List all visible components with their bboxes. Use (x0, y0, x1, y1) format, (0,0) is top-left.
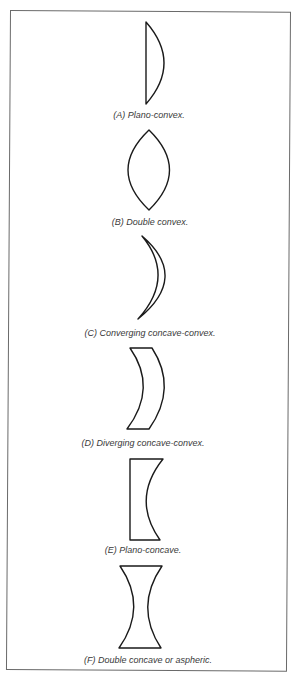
caption-a: (A) Plano-convex. (113, 110, 185, 120)
caption-f: (F) Double concave or aspheric. (84, 655, 212, 665)
caption-c: (C) Converging concave-convex. (84, 328, 215, 338)
double-convex-lens (128, 130, 170, 210)
plano-concave-lens (130, 459, 163, 540)
diverging-meniscus-lens (127, 348, 164, 429)
converging-meniscus-lens (138, 236, 165, 319)
caption-d: (D) Diverging concave-convex. (81, 438, 204, 448)
caption-e: (E) Plano-concave. (105, 545, 182, 555)
plano-convex-lens (146, 22, 164, 104)
caption-b: (B) Double convex. (112, 217, 189, 227)
double-concave-lens (119, 566, 162, 648)
lens-diagram (0, 0, 298, 679)
